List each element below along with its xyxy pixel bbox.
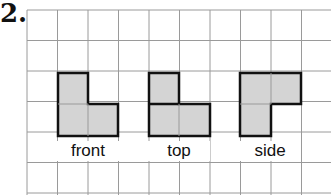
front-label: front (57, 141, 119, 161)
view-shapes (58, 73, 301, 136)
side-label: side (239, 141, 301, 161)
grid-diagram (0, 0, 331, 195)
top-label: top (148, 141, 210, 161)
